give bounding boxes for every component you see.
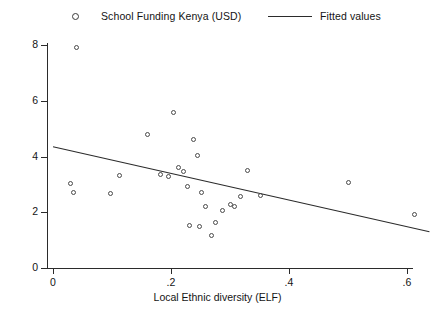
scatter-point: [117, 173, 122, 178]
plot-area: 02468 0.2.4.6 Local Ethnic diversity (EL…: [0, 0, 435, 325]
scatter-point: [195, 153, 200, 158]
scatter-point: [166, 174, 171, 179]
scatter-point: [199, 190, 204, 195]
scatter-point: [176, 165, 181, 170]
fitted-values-line: [0, 0, 435, 325]
scatter-point: [203, 204, 208, 209]
scatter-point: [412, 212, 417, 217]
scatter-point: [209, 233, 214, 238]
scatter-plot-figure: School Funding Kenya (USD) Fitted values…: [0, 0, 435, 325]
scatter-point: [158, 172, 163, 177]
x-axis-title: Local Ethnic diversity (ELF): [0, 291, 435, 303]
scatter-point: [238, 194, 243, 199]
scatter-point: [191, 137, 196, 142]
